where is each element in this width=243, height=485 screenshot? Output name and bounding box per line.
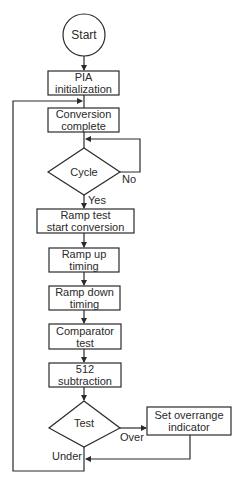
ramp-test-line1: Ramp test [60,209,110,221]
comparator-label: Comparator test [49,324,121,349]
cycle-label: Cycle [60,165,108,179]
subtraction-label: 512 subtraction [49,363,121,387]
pia-init-line2: initialization [55,83,112,95]
start-label: Start [63,28,105,42]
overrange-line1: Set overrange [154,409,223,421]
pia-init-label: PIA initialization [48,71,119,95]
test-over-label: Over [120,431,144,444]
comparator-line1: Comparator [56,325,114,337]
conversion-line2: complete [61,120,106,132]
ramp-test-line2: start conversion [47,221,125,233]
subtraction-line1: 512 [76,363,94,375]
cycle-no-label: No [122,173,136,186]
conversion-complete-label: Conversion complete [48,108,119,132]
cycle-yes-label: Yes [88,194,106,207]
ramp-down-label: Ramp down timing [49,286,120,310]
comparator-line2: test [76,337,94,349]
ramp-down-line2: timing [70,298,99,310]
ramp-up-line2: timing [69,260,98,272]
ramp-up-label: Ramp up timing [49,248,119,272]
test-under-label: Under [52,450,82,463]
overrange-label: Set overrange indicator [147,407,231,435]
overrange-line2: indicator [168,421,210,433]
subtraction-line2: subtraction [58,375,112,387]
test-label: Test [62,416,106,430]
ramp-test-label: Ramp test start conversion [37,209,134,233]
conversion-line1: Conversion [56,108,112,120]
ramp-up-line1: Ramp up [62,248,107,260]
pia-init-line1: PIA [75,71,93,83]
ramp-down-line1: Ramp down [55,286,114,298]
